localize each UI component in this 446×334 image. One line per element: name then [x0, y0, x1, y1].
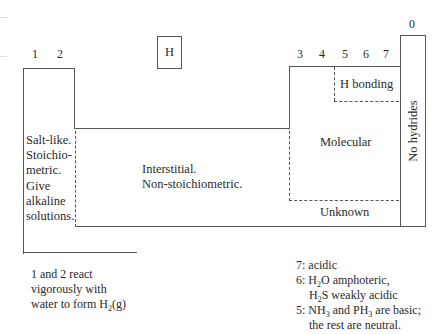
divider-hbonding-bottom — [334, 101, 399, 102]
note-text: water to form H — [31, 297, 108, 311]
salt-like-line: solutions. — [26, 209, 74, 224]
note-line: vigorously with — [31, 282, 126, 297]
group-label-1: 1 — [29, 47, 41, 61]
note-line: the rest are neutral. — [296, 318, 421, 333]
group-label-6: 6 — [360, 47, 372, 61]
interstitial-label: Interstitial. Non-stoichiometric. — [142, 162, 242, 192]
note-line: water to form H2(g) — [31, 297, 126, 312]
divider-molecular-unknown — [289, 200, 399, 201]
hydrogen-label: H — [165, 45, 174, 60]
note-line: 5: NH3 and PH3 are basic; — [296, 303, 421, 318]
note-line: H2S weakly acidic — [296, 288, 421, 303]
divider-salt-interstitial — [75, 131, 76, 227]
h-bonding-label: H bonding — [340, 77, 393, 92]
molecular-label: Molecular — [320, 135, 371, 150]
salt-like-line: Give — [26, 179, 74, 194]
note-line: 6: H2O amphoteric, — [296, 273, 421, 288]
note-text: 5: NH — [296, 303, 326, 317]
outline-left — [23, 68, 24, 254]
salt-like-line: metric. — [26, 163, 74, 178]
group-label-3: 3 — [294, 47, 306, 61]
outline-d-block-top — [74, 128, 290, 129]
group-label-0: 0 — [406, 17, 418, 31]
note-text: O amphoteric, — [321, 273, 390, 287]
note-line: 7: acidic — [296, 258, 421, 273]
group-label-4: 4 — [316, 47, 328, 61]
edge-tick — [0, 17, 7, 18]
note-text: S weakly acidic — [322, 288, 398, 302]
edge-tick — [0, 56, 7, 57]
outline-group2-right — [74, 68, 75, 129]
salt-like-line: alkaline — [26, 194, 74, 209]
group-label-7: 7 — [380, 47, 392, 61]
outline-p-block-top — [289, 66, 401, 67]
group-label-5: 5 — [339, 47, 351, 61]
outline-bottom-main — [75, 226, 401, 227]
note-line: 1 and 2 react — [31, 267, 126, 282]
note-groups-1-2: 1 and 2 react vigorously with water to f… — [31, 267, 126, 312]
outline-group3-left — [289, 66, 290, 129]
note-text: 6: H — [296, 273, 317, 287]
note-text: (g) — [112, 297, 126, 311]
salt-like-label: Salt-like. Stoichio- metric. Give alkali… — [26, 133, 74, 224]
salt-like-line: Salt-like. — [26, 133, 74, 148]
note-text: and PH — [330, 303, 369, 317]
unknown-label: Unknown — [320, 205, 369, 220]
salt-like-line: Stoichio- — [26, 148, 74, 163]
note-groups-5-7: 7: acidic 6: H2O amphoteric, H2S weakly … — [296, 258, 421, 333]
interstitial-line: Interstitial. — [142, 162, 242, 177]
outline-bottom-s-block — [23, 252, 137, 253]
note-text: H — [309, 288, 318, 302]
outline-top-s-block — [23, 68, 75, 69]
group-label-2: 2 — [54, 47, 66, 61]
divider-interstitial-molecular — [289, 131, 290, 201]
interstitial-line: Non-stoichiometric. — [142, 177, 242, 192]
no-hydrides-box: No hydrides — [400, 35, 426, 227]
divider-hbonding-left — [334, 67, 335, 101]
note-text: are basic; — [372, 303, 421, 317]
hydrogen-box: H — [157, 36, 182, 69]
no-hydrides-label: No hydrides — [406, 100, 421, 161]
